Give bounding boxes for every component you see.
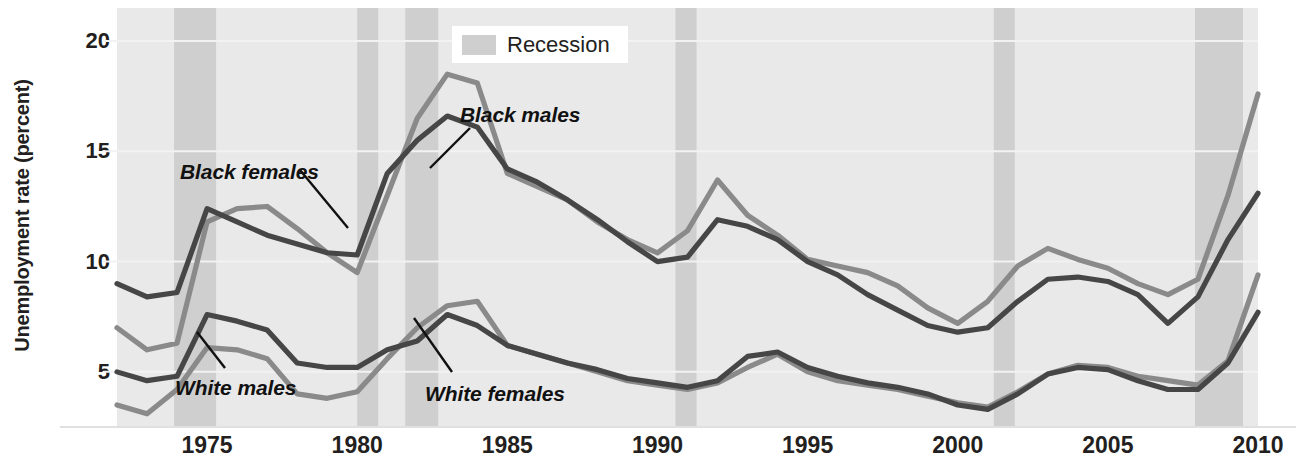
recession-band-3 [405,8,438,427]
recession-band-5 [994,8,1015,427]
series-annotation-black-females: Black females [180,160,319,184]
series-annotation-white-males: White males [175,376,296,400]
x-tick-label-1985: 1985 [482,432,533,459]
x-tick-label-2000: 2000 [932,432,983,459]
legend: Recession [452,26,628,63]
x-tick-label-2005: 2005 [1082,432,1133,459]
x-tick-label-2010: 2010 [1232,432,1283,459]
legend-label-recession: Recession [507,32,610,58]
x-tick-label-1975: 1975 [181,432,232,459]
recession-swatch-icon [462,35,496,55]
chart-container: Unemployment rate (percent) 5101520 1975… [0,0,1296,476]
series-annotation-white-females: White females [425,382,565,406]
x-tick-label-1980: 1980 [332,432,383,459]
x-tick-label-1995: 1995 [782,432,833,459]
line-chart-plot [0,0,1296,476]
series-annotation-black-males: Black males [460,103,580,127]
x-tick-label-1990: 1990 [632,432,683,459]
